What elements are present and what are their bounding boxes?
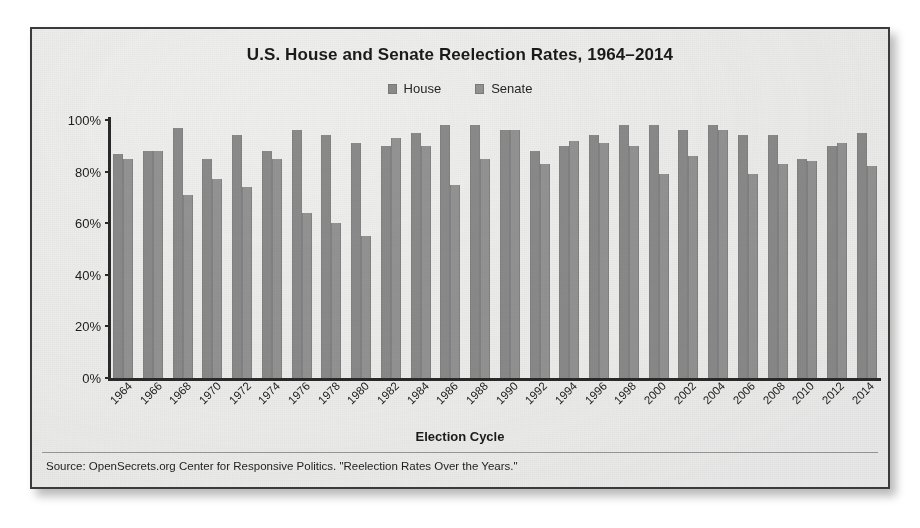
x-tick-label-1998: 1998 [612,380,639,407]
bar-senate-2002[interactable] [688,156,698,378]
bar-house-1984[interactable] [411,133,421,378]
screenshot-stage: U.S. House and Senate Reelection Rates, … [0,0,920,528]
bar-house-1966[interactable] [143,151,153,378]
chart-legend: HouseSenate [32,81,888,96]
bar-house-1968[interactable] [173,128,183,378]
bar-house-2000[interactable] [649,125,659,378]
chart-card: U.S. House and Senate Reelection Rates, … [30,27,890,489]
legend-label-senate: Senate [491,81,532,96]
bar-house-1994[interactable] [559,146,569,378]
x-tick-label-1964: 1964 [108,380,135,407]
bar-senate-2014[interactable] [867,166,877,378]
bar-group [619,120,639,378]
bar-group [708,120,728,378]
x-tick-label-2008: 2008 [760,380,787,407]
bar-group [292,120,312,378]
x-tick-label-2010: 2010 [790,380,817,407]
x-tick-label-1978: 1978 [315,380,342,407]
bar-house-2012[interactable] [827,146,837,378]
legend-swatch-senate [475,84,484,94]
bar-group [411,120,431,378]
bar-senate-2008[interactable] [778,164,788,378]
chart-title: U.S. House and Senate Reelection Rates, … [32,45,888,65]
bar-group [321,120,341,378]
x-axis-title: Election Cycle [32,429,888,444]
bar-senate-1998[interactable] [629,146,639,378]
x-tick-label-2012: 2012 [820,380,847,407]
bar-senate-1982[interactable] [391,138,401,378]
bar-house-2002[interactable] [678,130,688,378]
legend-item-senate[interactable]: Senate [475,81,532,96]
source-note: Source: OpenSecrets.org Center for Respo… [46,460,518,472]
x-tick-label-1982: 1982 [375,380,402,407]
bar-group [530,120,550,378]
bar-group [678,120,698,378]
bar-house-1980[interactable] [351,143,361,378]
x-tick-label-2000: 2000 [642,380,669,407]
bar-group [470,120,490,378]
bar-senate-1992[interactable] [540,164,550,378]
bar-house-2004[interactable] [708,125,718,378]
bar-senate-1990[interactable] [510,130,520,378]
bar-senate-1996[interactable] [599,143,609,378]
bar-group [351,120,371,378]
bar-senate-2006[interactable] [748,174,758,378]
x-tick-label-1980: 1980 [345,380,372,407]
bar-senate-2000[interactable] [659,174,669,378]
x-tick-label-1988: 1988 [464,380,491,407]
legend-swatch-house [388,84,397,94]
x-tick-label-2014: 2014 [849,380,876,407]
bar-house-1982[interactable] [381,146,391,378]
x-tick-label-1984: 1984 [404,380,431,407]
bar-house-1974[interactable] [262,151,272,378]
bar-senate-2004[interactable] [718,130,728,378]
x-tick-label-1970: 1970 [197,380,224,407]
bar-senate-1966[interactable] [153,151,163,378]
bar-house-1964[interactable] [113,154,123,378]
x-tick-label-2006: 2006 [731,380,758,407]
x-tick-label-1972: 1972 [226,380,253,407]
bar-senate-1964[interactable] [123,159,133,378]
bar-senate-1984[interactable] [421,146,431,378]
bar-senate-1968[interactable] [183,195,193,378]
bar-group [559,120,579,378]
bar-senate-1978[interactable] [331,223,341,378]
bar-house-1978[interactable] [321,135,331,378]
bar-house-2014[interactable] [857,133,867,378]
x-tick-label-1996: 1996 [582,380,609,407]
x-tick-label-1990: 1990 [493,380,520,407]
bar-senate-1976[interactable] [302,213,312,378]
x-tick-label-1966: 1966 [137,380,164,407]
bar-house-1996[interactable] [589,135,599,378]
bar-house-2008[interactable] [768,135,778,378]
bar-house-1976[interactable] [292,130,302,378]
bar-group [500,120,520,378]
bar-senate-1980[interactable] [361,236,371,378]
bar-senate-1988[interactable] [480,159,490,378]
legend-item-house[interactable]: House [388,81,442,96]
bar-senate-1974[interactable] [272,159,282,378]
bar-group [827,120,847,378]
bar-senate-2010[interactable] [807,161,817,378]
bar-group [797,120,817,378]
bar-house-1988[interactable] [470,125,480,378]
x-tick-label-1976: 1976 [286,380,313,407]
x-tick-label-1986: 1986 [434,380,461,407]
bar-senate-2012[interactable] [837,143,847,378]
bar-house-1970[interactable] [202,159,212,378]
bar-house-2010[interactable] [797,159,807,378]
bar-group [173,120,193,378]
bar-senate-1994[interactable] [569,141,579,378]
bar-house-1990[interactable] [500,130,510,378]
bar-senate-1972[interactable] [242,187,252,378]
x-tick-label-1968: 1968 [167,380,194,407]
bar-group [113,120,133,378]
y-tick-label-100: 100% [68,113,110,128]
bar-house-1998[interactable] [619,125,629,378]
bar-house-1992[interactable] [530,151,540,378]
bar-senate-1986[interactable] [450,185,460,379]
bar-house-1986[interactable] [440,125,450,378]
bar-house-2006[interactable] [738,135,748,378]
bar-house-1972[interactable] [232,135,242,378]
bar-senate-1970[interactable] [212,179,222,378]
